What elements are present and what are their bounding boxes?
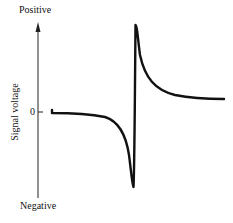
zero-label: 0: [30, 106, 35, 117]
y-axis-label: Signal voltage: [9, 83, 20, 141]
positive-label: Positive: [19, 4, 51, 15]
y-axis-arrow-icon: [36, 22, 41, 32]
negative-label: Negative: [20, 200, 56, 211]
signal-curve: [52, 25, 224, 187]
